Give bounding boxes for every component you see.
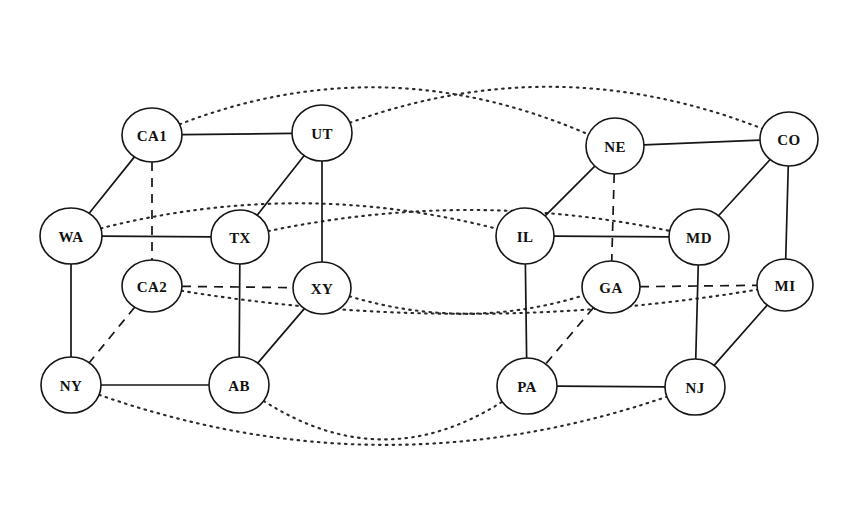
node-layer: CA1UTNECOWATXILMDCA2XYGAMINYABPANJ bbox=[40, 105, 818, 415]
edge-solid-pa-nj bbox=[557, 386, 665, 387]
edge-dashed-ca2-ny bbox=[89, 307, 134, 363]
edge-overlay-wa-il bbox=[101, 203, 497, 229]
node-pa[interactable]: PA bbox=[497, 358, 557, 414]
edge-solid-xy-ab bbox=[258, 309, 305, 363]
edge-overlay-ny-nj bbox=[99, 395, 667, 445]
overlay-edge-layer bbox=[99, 87, 762, 445]
edge-overlay-ca2-mi bbox=[182, 290, 758, 314]
node-label-ut: UT bbox=[311, 126, 333, 142]
edge-overlay-tx-md bbox=[268, 210, 669, 231]
edge-solid-il-pa bbox=[525, 264, 526, 358]
edge-solid-ne-co bbox=[644, 140, 760, 145]
node-label-xy: XY bbox=[311, 281, 333, 297]
node-il[interactable]: IL bbox=[496, 208, 554, 264]
node-label-pa: PA bbox=[517, 379, 537, 395]
node-ny[interactable]: NY bbox=[41, 357, 101, 413]
edge-solid-md-nj bbox=[696, 265, 699, 359]
network-graph: CA1UTNECOWATXILMDCA2XYGAMINYABPANJ bbox=[0, 0, 850, 527]
edge-solid-co-md bbox=[719, 160, 771, 216]
node-label-ca1: CA1 bbox=[137, 128, 167, 144]
edge-dashed-ne-ga bbox=[612, 174, 614, 261]
node-label-mi: MI bbox=[775, 278, 796, 294]
node-label-ny: NY bbox=[60, 378, 82, 394]
edge-dashed-ca2-xy bbox=[182, 286, 293, 287]
dashed-edge-layer bbox=[89, 162, 757, 364]
node-co[interactable]: CO bbox=[760, 112, 818, 166]
edge-solid-ca1-ut bbox=[182, 133, 292, 134]
node-ca1[interactable]: CA1 bbox=[122, 108, 182, 162]
edge-solid-co-mi bbox=[786, 166, 789, 259]
node-label-co: CO bbox=[777, 132, 800, 148]
edge-dashed-ga-pa bbox=[546, 308, 594, 364]
node-label-nj: NJ bbox=[685, 380, 704, 396]
edge-solid-wa-tx bbox=[102, 236, 211, 237]
node-ga[interactable]: GA bbox=[582, 261, 640, 313]
node-label-ga: GA bbox=[599, 280, 622, 296]
node-label-tx: TX bbox=[229, 230, 251, 246]
edge-solid-il-md bbox=[554, 236, 669, 237]
node-xy[interactable]: XY bbox=[293, 262, 351, 314]
node-label-ab: AB bbox=[228, 378, 250, 394]
node-label-wa: WA bbox=[59, 229, 84, 245]
edge-solid-tx-ab bbox=[239, 264, 240, 357]
node-md[interactable]: MD bbox=[669, 209, 729, 265]
node-label-ne: NE bbox=[604, 139, 626, 155]
node-nj[interactable]: NJ bbox=[665, 359, 725, 415]
diagram-canvas: CA1UTNECOWATXILMDCA2XYGAMINYABPANJ bbox=[0, 0, 850, 527]
edge-overlay-ut-co bbox=[350, 87, 762, 129]
edge-overlay-ab-pa bbox=[264, 401, 503, 440]
node-ne[interactable]: NE bbox=[586, 118, 644, 174]
node-ut[interactable]: UT bbox=[292, 105, 352, 161]
node-ab[interactable]: AB bbox=[209, 357, 269, 413]
edge-solid-ut-tx bbox=[257, 156, 304, 216]
node-label-md: MD bbox=[686, 230, 712, 246]
edge-solid-ne-il bbox=[545, 166, 595, 216]
node-mi[interactable]: MI bbox=[757, 259, 813, 311]
node-wa[interactable]: WA bbox=[40, 208, 102, 264]
node-ca2[interactable]: CA2 bbox=[122, 260, 182, 312]
edge-solid-mi-nj bbox=[714, 305, 767, 365]
node-label-il: IL bbox=[517, 229, 534, 245]
node-label-ca2: CA2 bbox=[137, 279, 167, 295]
edge-solid-ca1-wa bbox=[89, 157, 134, 213]
node-tx[interactable]: TX bbox=[211, 210, 269, 264]
